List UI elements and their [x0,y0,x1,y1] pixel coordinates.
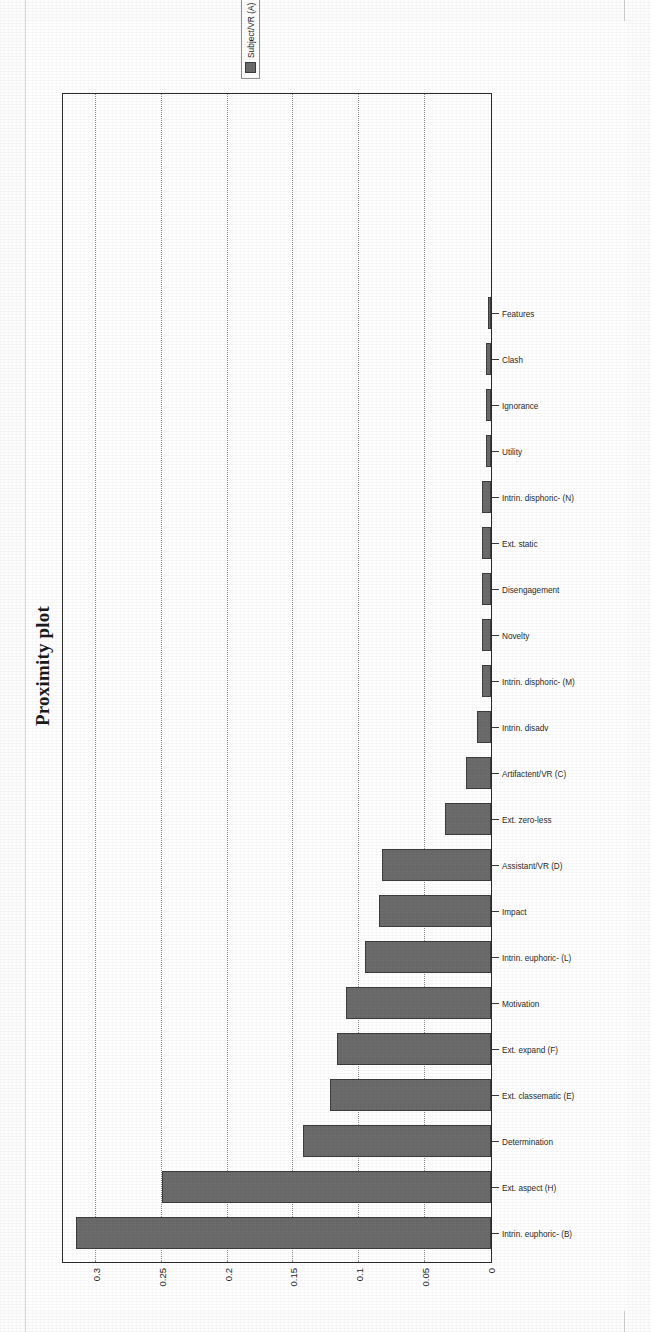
bar-slot [63,842,491,888]
category-label-slot: Disengagement [492,567,612,613]
category-label-slot: Intrin. euphoric- (B) [492,1211,612,1257]
axis-tick-icon [492,957,499,958]
bar [364,941,490,973]
category-label: Features [502,311,534,319]
category-label-slot: Ext. expand (F) [492,1027,612,1073]
bar [481,573,490,605]
category-label-slot: Determination [492,1119,612,1165]
bar [381,849,490,881]
bar-slot [63,704,491,750]
category-label: Ext. aspect (H) [502,1185,556,1193]
category-label-slot: Impact [492,889,612,935]
bar [379,895,491,927]
bar-slot [63,750,491,796]
bar [76,1217,491,1249]
y-axis-tick-label: 0.1 [353,1268,364,1281]
y-axis-tick-label: 0.05 [419,1268,430,1287]
category-label-slot: Features [492,291,612,337]
axis-tick-icon [492,543,499,544]
bar [330,1079,491,1111]
proximity-plot-figure: Proximity plot 00.050.10.150.20.250.3 In… [26,21,626,1311]
axis-tick-icon [492,635,499,636]
bar-slot [63,290,491,336]
axis-tick-icon [492,1049,499,1050]
axis-tick-icon [492,681,499,682]
axis-tick-icon [492,589,499,590]
category-label-slot: Ignorance [492,383,612,429]
category-label-slot: Intrin. disphoric- (M) [492,659,612,705]
axis-tick-icon [492,1003,499,1004]
axis-tick-icon [492,1095,499,1096]
category-label-slot: Ext. static [492,521,612,567]
bar [346,987,491,1019]
category-label: Intrin. disphoric- (M) [502,679,575,687]
axis-tick-icon [492,865,499,866]
category-label: Ext. expand (F) [502,1047,558,1055]
bar-slot [63,1072,491,1118]
category-label-slot: Motivation [492,981,612,1027]
y-axis-tick-label: 0.25 [156,1268,167,1287]
category-label-slot: Intrin. disphoric- (N) [492,475,612,521]
category-label-slot: Ext. zero-less [492,797,612,843]
bar-slot [63,796,491,842]
category-label-slot: Utility [492,429,612,475]
bar [476,711,490,743]
category-label: Intrin. disadv [502,725,548,733]
category-label: Impact [502,909,527,917]
legend-label: Subject/VR (A) [245,3,255,58]
axis-tick-icon [492,911,499,912]
plot-area: 00.050.10.150.20.250.3 [62,93,492,1263]
category-label: Intrin. disphoric- (N) [502,495,574,503]
bar [485,389,490,421]
category-label: Clash [502,357,523,365]
bar [481,665,490,697]
bars-group [63,94,491,1262]
bar-slot [63,1210,491,1256]
bar-slot [63,888,491,934]
y-axis-tick-label: 0.2 [222,1268,233,1281]
bar [485,435,490,467]
category-label: Utility [502,449,522,457]
category-label: Motivation [502,1001,539,1009]
category-label: Determination [502,1139,553,1147]
bar-slot [63,428,491,474]
bar-slot [63,520,491,566]
bar-slot [63,336,491,382]
category-axis-labels: Intrin. euphoric- (B)Ext. aspect (H)Dete… [492,93,612,1263]
rotated-figure-wrapper: Proximity plot 00.050.10.150.20.250.3 In… [26,21,626,1311]
category-label-slot: Artifactent/VR (C) [492,751,612,797]
bar-slot [63,658,491,704]
bar [481,619,490,651]
axis-tick-icon [492,1141,499,1142]
category-label: Novelty [502,633,529,641]
axis-tick-icon [492,313,499,314]
legend-swatch-icon [245,62,256,73]
bar-slot [63,474,491,520]
bar [485,343,490,375]
bar-slot [63,382,491,428]
category-label-slot: Ext. aspect (H) [492,1165,612,1211]
category-label: Assistant/VR (D) [502,863,563,871]
chart-legend: Subject/VR (A) [241,0,260,79]
y-axis-tick-label: 0 [485,1268,496,1273]
bar [465,757,490,789]
category-label: Ext. static [502,541,538,549]
axis-tick-icon [492,497,499,498]
bar-slot [63,1118,491,1164]
category-label-slot: Ext. classematic (E) [492,1073,612,1119]
bar-slot [63,934,491,980]
axis-tick-icon [492,359,499,360]
y-axis-tick-label: 0.15 [287,1268,298,1287]
category-label-slot: Intrin. euphoric- (L) [492,935,612,981]
y-axis-tick-label: 0.3 [90,1268,101,1281]
category-label: Intrin. euphoric- (B) [502,1231,572,1239]
axis-tick-icon [492,727,499,728]
category-label: Ext. classematic (E) [502,1093,574,1101]
scanned-page: Proximity plot 00.050.10.150.20.250.3 In… [0,0,651,1332]
category-label: Intrin. euphoric- (L) [502,955,571,963]
bar-slot [63,1026,491,1072]
bar [336,1033,490,1065]
axis-tick-icon [492,1233,499,1234]
page-title: Proximity plot [32,21,54,1311]
category-label: Disengagement [502,587,559,595]
